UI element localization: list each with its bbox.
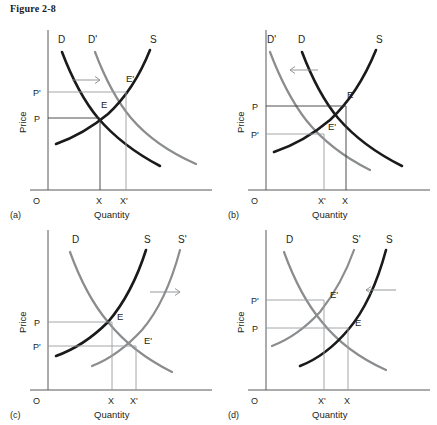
tick-quantity-X-prime: X' bbox=[120, 196, 128, 206]
axis-label-quantity: Quantity bbox=[312, 409, 348, 420]
curve-supply-shifted bbox=[272, 250, 354, 346]
curve-demand-original bbox=[284, 252, 386, 370]
label-curve-D: D bbox=[286, 234, 293, 245]
tick-quantity-X: X bbox=[342, 196, 348, 206]
label-origin: O bbox=[33, 396, 40, 406]
panel-b: D' D S E E' P P' X' X O Price Quantity (… bbox=[218, 18, 437, 223]
panel-a: D D' S E E' P' P X X' O Price Quantity (… bbox=[0, 18, 219, 223]
tick-quantity-X-prime: X' bbox=[318, 396, 326, 406]
tick-price-P-prime: P' bbox=[251, 130, 259, 140]
label-curve-D: D bbox=[58, 34, 65, 45]
tick-quantity-X: X bbox=[108, 396, 114, 406]
tick-price-P: P bbox=[34, 114, 40, 124]
tick-price-P-prime: P' bbox=[251, 296, 259, 306]
tick-price-P: P bbox=[34, 318, 40, 328]
label-equilibrium-E: E bbox=[355, 317, 361, 328]
label-curve-S: S bbox=[150, 34, 157, 45]
label-curve-D: D bbox=[298, 34, 305, 45]
axis-label-price: Price bbox=[17, 111, 28, 133]
tick-price-P: P bbox=[252, 324, 258, 334]
label-equilibrium-E-prime: E' bbox=[330, 289, 338, 300]
label-equilibrium-E-prime: E' bbox=[126, 73, 134, 84]
curve-supply-original bbox=[56, 50, 150, 144]
figure-title: Figure 2-8 bbox=[10, 3, 56, 14]
tick-price-P-prime: P' bbox=[33, 88, 41, 98]
label-origin: O bbox=[251, 396, 258, 406]
curve-demand-shifted bbox=[270, 52, 370, 170]
label-equilibrium-E-prime: E' bbox=[328, 121, 336, 132]
label-equilibrium-E: E bbox=[101, 99, 107, 110]
curve-demand-original bbox=[302, 52, 402, 166]
curve-demand-original bbox=[62, 52, 160, 166]
label-origin: O bbox=[33, 196, 40, 206]
panel-d: D S' S E' E P' P X' X O Price Quantity (… bbox=[218, 218, 437, 423]
axis-label-quantity: Quantity bbox=[94, 409, 130, 420]
panel-label-d: (d) bbox=[228, 410, 239, 420]
axis-label-price: Price bbox=[235, 311, 246, 333]
label-equilibrium-E: E bbox=[347, 89, 353, 100]
label-curve-S: S bbox=[144, 234, 151, 245]
label-curve-D: D bbox=[72, 234, 79, 245]
label-origin: O bbox=[251, 196, 258, 206]
tick-price-P-prime: P' bbox=[33, 342, 41, 352]
label-equilibrium-E-prime: E' bbox=[144, 335, 152, 346]
label-curve-S-prime: S' bbox=[352, 234, 361, 245]
label-equilibrium-E: E bbox=[117, 311, 123, 322]
label-curve-S-prime: S' bbox=[178, 234, 187, 245]
tick-quantity-X: X bbox=[344, 396, 350, 406]
tick-quantity-X-prime: X' bbox=[318, 196, 326, 206]
tick-price-P: P bbox=[252, 102, 258, 112]
axis-label-price: Price bbox=[235, 111, 246, 133]
label-curve-S: S bbox=[376, 34, 383, 45]
tick-quantity-X-prime: X' bbox=[130, 396, 138, 406]
panel-label-c: (c) bbox=[10, 410, 21, 420]
label-curve-S: S bbox=[386, 234, 393, 245]
curve-demand-shifted bbox=[95, 52, 196, 164]
label-curve-D-prime: D' bbox=[267, 34, 276, 45]
axis-label-price: Price bbox=[17, 311, 28, 333]
label-curve-D-prime: D' bbox=[88, 34, 97, 45]
curve-supply-original bbox=[300, 250, 386, 366]
panel-c: D S S' E E' P P' X X' O Price Quantity (… bbox=[0, 218, 219, 423]
tick-quantity-X: X bbox=[96, 196, 102, 206]
